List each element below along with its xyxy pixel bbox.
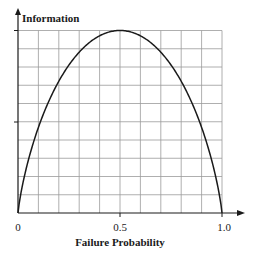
axes — [14, 8, 245, 217]
chart: Information 0 0.5 1.0 Failure Probabilit… — [0, 0, 256, 253]
y-axis-arrow-icon — [15, 8, 21, 15]
x-axis-arrow-icon — [237, 210, 245, 216]
x-tick-label-05: 0.5 — [113, 221, 127, 233]
grid-lines — [18, 31, 222, 214]
x-axis-label: Failure Probability — [75, 236, 165, 248]
x-tick-label-0: 0 — [15, 221, 21, 233]
y-axis-label: Information — [22, 12, 79, 24]
x-tick-label-10: 1.0 — [217, 221, 231, 233]
